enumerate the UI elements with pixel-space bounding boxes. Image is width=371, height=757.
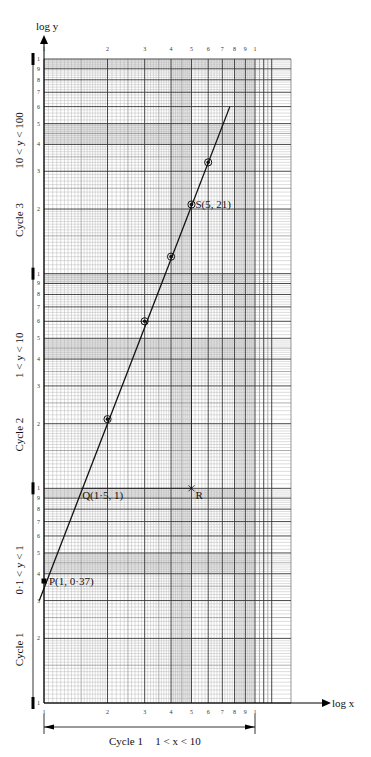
y-axis-title: log y (36, 20, 59, 32)
shade-band-y (44, 338, 255, 359)
y-cycle-name: Cycle 1 (13, 632, 25, 666)
x-cycle-range: 1 < x < 10 (155, 735, 201, 747)
y-cycle-boundary-mark (32, 53, 35, 65)
y-tick-label: 4 (37, 141, 40, 147)
x-tick-label-top: 4 (170, 46, 173, 52)
shade-band-y (44, 124, 255, 145)
point-Q-label: Q(1·5, 1) (82, 489, 123, 502)
y-tick-label: 7 (37, 89, 40, 95)
y-tick-label: 6 (37, 104, 40, 110)
shade-band-x (171, 59, 191, 703)
x-tick-label-top: 1 (43, 46, 46, 52)
y-tick-label: 1 (37, 700, 40, 706)
point-P-label: P(1, 0·37) (49, 575, 94, 588)
y-tick-label: 5 (37, 121, 40, 127)
shade-band-x (235, 59, 255, 703)
data-point (169, 255, 173, 259)
y-tick-label: 6 (37, 533, 40, 539)
x-axis-title: log x (332, 697, 355, 709)
y-tick-label: 5 (37, 550, 40, 556)
data-point (106, 417, 110, 421)
y-tick-label: 3 (37, 168, 40, 174)
y-tick-label: 8 (37, 291, 40, 297)
y-cycle-name: Cycle 3 (13, 203, 25, 237)
x-tick-label-bottom: 2 (106, 709, 109, 715)
x-tick-label-bottom: 8 (233, 709, 236, 715)
data-point (206, 161, 210, 165)
y-cycle-range: 0·1 < y < 1 (13, 545, 25, 594)
shade-band-y (44, 488, 255, 498)
shade-band-y (44, 59, 255, 69)
y-tick-label: 7 (37, 519, 40, 525)
y-tick-label: 6 (37, 318, 40, 324)
y-tick-label: 4 (37, 356, 40, 362)
log-log-chart: 1122334455667788991112345678912345678912… (0, 0, 371, 757)
y-tick-label: 1 (37, 485, 40, 491)
data-point (190, 203, 194, 207)
x-tick-label-top: 1 (254, 46, 257, 52)
y-tick-label: 7 (37, 304, 40, 310)
x-tick-label-top: 9 (244, 46, 247, 52)
x-tick-label-bottom: 7 (221, 709, 224, 715)
y-tick-label: 4 (37, 571, 40, 577)
y-tick-label: 9 (37, 495, 40, 501)
x-axis-arrow-icon (322, 699, 331, 707)
tick-labels: 1122334455667788991112345678912345678912… (37, 46, 257, 715)
point-P-marker (42, 579, 47, 584)
data-point (143, 319, 147, 323)
x-tick-label-top: 2 (106, 46, 109, 52)
x-cycle-arrow-right-icon (245, 725, 255, 730)
point-S-label: S(5, 21) (195, 198, 231, 211)
y-tick-label: 2 (37, 635, 40, 641)
y-cycle-name: Cycle 2 (13, 418, 25, 452)
x-tick-label-bottom: 5 (190, 709, 193, 715)
y-cycle-boundary-mark (32, 268, 35, 280)
shade-band-y (44, 274, 255, 284)
y-tick-label: 3 (37, 383, 40, 389)
y-cycle-range: 10 < y < 100 (13, 112, 25, 169)
x-tick-label-bottom: 6 (207, 709, 210, 715)
y-cycle-range: 1 < y < 10 (13, 332, 25, 378)
shade-band-y (44, 553, 255, 574)
annotations: P(1, 0·37)Q(1·5, 1)RS(5, 21) (42, 198, 232, 588)
y-tick-label: 8 (37, 506, 40, 512)
y-tick-label: 1 (37, 271, 40, 277)
x-cycle-arrow-left-icon (44, 725, 54, 730)
x-tick-label-top: 5 (190, 46, 193, 52)
y-cycle-boundary-mark (32, 482, 35, 494)
x-tick-label-bottom: 3 (143, 709, 146, 715)
x-tick-label-top: 6 (207, 46, 210, 52)
x-tick-label-bottom: 9 (244, 709, 247, 715)
y-tick-label: 9 (37, 66, 40, 72)
y-tick-label: 2 (37, 421, 40, 427)
x-cycle-name: Cycle 1 (109, 735, 143, 747)
x-tick-label-top: 7 (221, 46, 224, 52)
y-tick-label: 5 (37, 335, 40, 341)
x-tick-label-bottom: 4 (170, 709, 173, 715)
x-tick-label-top: 8 (233, 46, 236, 52)
y-cycle-boundary-mark (32, 697, 35, 709)
shaded-bands (44, 59, 255, 703)
x-tick-label-top: 3 (143, 46, 146, 52)
y-tick-label: 2 (37, 206, 40, 212)
y-tick-label: 8 (37, 77, 40, 83)
y-axis-arrow-icon (40, 35, 48, 44)
y-tick-label: 1 (37, 56, 40, 62)
y-tick-label: 9 (37, 280, 40, 286)
point-R-label: R (195, 489, 203, 501)
